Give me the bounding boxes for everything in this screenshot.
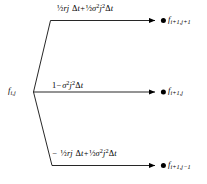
- down-node-subscript-space: j−1: [181, 163, 190, 170]
- down-leading-minus: −: [52, 149, 58, 158]
- middle-node-subscript-space: j: [181, 89, 183, 96]
- branch-probability-down: − ½rj Δt+½σ2j2Δt: [52, 148, 117, 158]
- branch-probability-middle: 1−σ2j2Δt: [52, 80, 83, 90]
- node-label-down: fi+1,j−1: [168, 160, 191, 170]
- up-node-subscript-time: i+1: [170, 18, 179, 25]
- node-dot-up: [161, 18, 166, 23]
- down-node-subscript-time: i+1: [170, 163, 179, 170]
- mid-term2-dt: t: [81, 81, 83, 90]
- source-node-subscript-space: j: [14, 89, 16, 96]
- node-dot-middle: [161, 90, 166, 95]
- middle-node-subscript-time: i+1: [170, 89, 179, 96]
- branch-probability-up: ½rj Δt+½σ2j2Δt: [57, 3, 113, 13]
- node-label-up: fi+1,j+1: [168, 15, 191, 25]
- node-label-source: fi,j: [8, 86, 16, 96]
- node-dot-down: [161, 163, 166, 168]
- node-label-middle: fi+1,j: [168, 86, 183, 96]
- up-term2-dt: t: [111, 4, 113, 13]
- trinomial-branch-diagram: ½rj Δt+½σ2j2Δt 1−σ2j2Δt − ½rj Δt+½σ2j2Δt…: [0, 0, 207, 184]
- up-node-subscript-space: j+1: [181, 18, 190, 25]
- down-term2-dt: t: [114, 149, 116, 158]
